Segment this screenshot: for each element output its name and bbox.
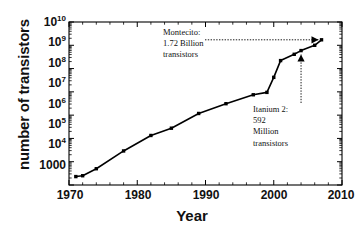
plot-area — [0, 0, 360, 241]
data-line — [76, 40, 322, 177]
data-markers — [74, 38, 323, 178]
transistor-count-chart: number of transistors 1010 109 108 107 1… — [0, 0, 360, 241]
